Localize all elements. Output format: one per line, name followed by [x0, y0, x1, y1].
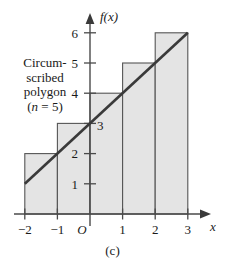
x-tick-label-neg2: −2 — [18, 222, 32, 237]
figure-circumscribed-polygon: 6 5 4 2 1 3 −2 −1 O 1 2 3 f(x) x Circum-… — [0, 0, 225, 274]
legend-line-4: (n = 5) — [8, 100, 82, 115]
legend-line-1: Circum- — [8, 56, 82, 71]
y-tick-label-2: 2 — [72, 146, 79, 161]
x-tick-label-neg1: −1 — [50, 222, 64, 237]
y-axis-arrow — [86, 13, 95, 24]
x-axis-label: x — [209, 219, 216, 234]
figure-caption: (c) — [0, 243, 225, 259]
y-tick-label-6: 6 — [72, 26, 79, 41]
legend-text: Circum- scribed polygon (n = 5) — [8, 56, 82, 114]
y-tick-label-1: 1 — [72, 177, 79, 192]
legend-n-value: = 5 — [38, 99, 58, 114]
legend-line-3: polygon — [8, 85, 82, 100]
bar-interval-1 — [25, 154, 58, 214]
x-tick-label-2: 2 — [152, 222, 159, 237]
origin-label: O — [77, 222, 87, 237]
bar-interval-4 — [123, 63, 156, 214]
y-intercept-label-3: 3 — [97, 118, 104, 133]
legend-line-2: scribed — [8, 71, 82, 86]
chart-svg: 6 5 4 2 1 3 −2 −1 O 1 2 3 f(x) x — [0, 0, 225, 274]
y-axis-label: f(x) — [100, 9, 118, 24]
x-axis-arrow — [200, 210, 211, 219]
x-tick-label-1: 1 — [119, 222, 126, 237]
x-tick-label-3: 3 — [185, 222, 192, 237]
